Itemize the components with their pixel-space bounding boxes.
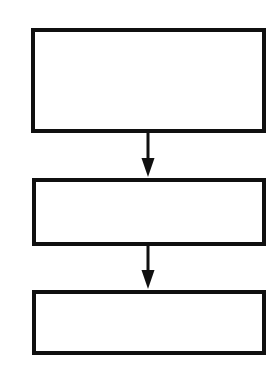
flowchart-arrow-2 bbox=[142, 245, 155, 289]
flowchart-arrow-1 bbox=[142, 132, 155, 177]
flowchart-node-3[interactable] bbox=[32, 290, 266, 355]
flowchart-canvas bbox=[0, 0, 280, 369]
flowchart-node-1[interactable] bbox=[31, 28, 266, 133]
arrow-stem bbox=[147, 245, 150, 272]
flowchart-node-2[interactable] bbox=[32, 178, 266, 246]
arrowhead-icon bbox=[142, 158, 155, 177]
arrow-stem bbox=[147, 132, 150, 160]
arrowhead-icon bbox=[142, 270, 155, 289]
